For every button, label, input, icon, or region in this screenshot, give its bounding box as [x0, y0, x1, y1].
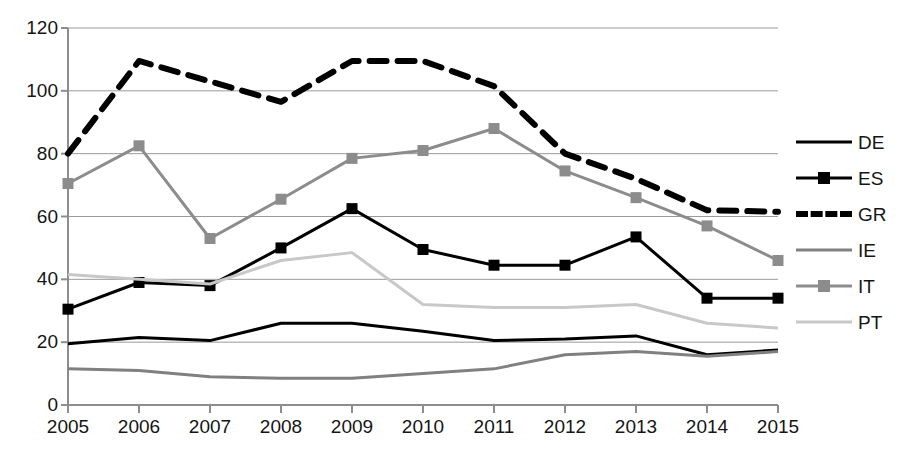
- legend-label: IE: [858, 241, 876, 260]
- y-tick-label: 60: [12, 207, 58, 226]
- data-point-it: [702, 220, 713, 231]
- legend-label: IT: [858, 277, 875, 296]
- legend-line-icon: [796, 141, 852, 144]
- series-line-pt: [68, 253, 778, 328]
- legend-label: PT: [858, 313, 882, 332]
- y-tick-label: 80: [12, 144, 58, 163]
- data-point-it: [773, 255, 784, 266]
- series-line-es: [68, 209, 778, 310]
- x-tick-label: 2005: [47, 417, 89, 436]
- legend-swatch-it: [796, 275, 852, 297]
- legend-label: ES: [858, 169, 883, 188]
- plot-canvas: [0, 0, 906, 461]
- x-tick-label: 2015: [757, 417, 799, 436]
- data-point-it: [205, 233, 216, 244]
- legend-swatch-es: [796, 167, 852, 189]
- legend-item-de[interactable]: DE: [796, 124, 900, 160]
- series-line-gr: [68, 61, 778, 212]
- y-axis-labels: 020406080100120: [6, 0, 58, 461]
- legend-line-icon: [796, 211, 852, 217]
- data-point-es: [702, 293, 713, 304]
- legend-label: DE: [858, 133, 884, 152]
- data-point-it: [63, 178, 74, 189]
- data-point-es: [631, 231, 642, 242]
- legend-item-ie[interactable]: IE: [796, 232, 900, 268]
- x-tick-label: 2014: [686, 417, 728, 436]
- data-point-es: [560, 260, 571, 271]
- data-point-it: [631, 192, 642, 203]
- y-tick-label: 120: [12, 18, 58, 37]
- data-point-it: [489, 123, 500, 134]
- data-point-it: [276, 194, 287, 205]
- line-chart: 020406080100120 200520062007200820092010…: [0, 0, 906, 461]
- legend-swatch-de: [796, 131, 852, 153]
- x-tick-label: 2007: [189, 417, 231, 436]
- data-point-it: [347, 153, 358, 164]
- data-point-es: [276, 242, 287, 253]
- x-tick-label: 2013: [615, 417, 657, 436]
- legend-label: GR: [858, 205, 887, 224]
- legend-marker-icon: [818, 280, 830, 292]
- legend-item-gr[interactable]: GR: [796, 196, 900, 232]
- chart-legend: DEESGRIEITPT: [796, 124, 900, 340]
- legend-item-it[interactable]: IT: [796, 268, 900, 304]
- x-tick-label: 2012: [544, 417, 586, 436]
- legend-item-pt[interactable]: PT: [796, 304, 900, 340]
- legend-swatch-gr: [796, 203, 852, 225]
- data-point-it: [418, 145, 429, 156]
- data-point-es: [63, 304, 74, 315]
- legend-line-icon: [796, 321, 852, 324]
- y-tick-label: 40: [12, 269, 58, 288]
- legend-line-icon: [796, 249, 852, 252]
- legend-marker-icon: [818, 172, 830, 184]
- x-tick-label: 2008: [260, 417, 302, 436]
- x-tick-label: 2011: [474, 417, 515, 436]
- x-tick-label: 2009: [331, 417, 373, 436]
- legend-swatch-pt: [796, 311, 852, 333]
- data-point-it: [560, 165, 571, 176]
- legend-item-es[interactable]: ES: [796, 160, 900, 196]
- series-line-ie: [68, 352, 778, 379]
- data-point-it: [134, 140, 145, 151]
- data-point-es: [347, 203, 358, 214]
- y-tick-label: 20: [12, 332, 58, 351]
- x-tick-label: 2010: [402, 417, 444, 436]
- series-line-de: [68, 323, 778, 354]
- x-axis-labels: 2005200620072008200920102011201220132014…: [0, 411, 906, 441]
- y-tick-label: 100: [12, 81, 58, 100]
- legend-swatch-ie: [796, 239, 852, 261]
- data-point-es: [773, 293, 784, 304]
- data-point-es: [489, 260, 500, 271]
- x-tick-label: 2006: [118, 417, 160, 436]
- data-point-es: [418, 244, 429, 255]
